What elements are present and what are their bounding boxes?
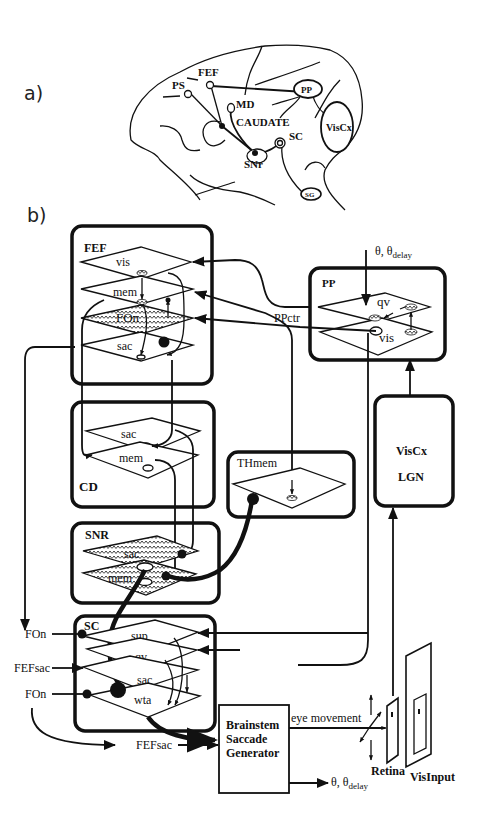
label-sg: SG — [305, 191, 315, 199]
fef-vis-cell — [137, 271, 147, 276]
thmem-title: THmem — [237, 456, 278, 470]
theta-top-label: θ, θdelay — [375, 244, 412, 260]
ps-node — [185, 91, 192, 98]
saccade-model-diagram: a) PS — [0, 0, 482, 832]
label-pp: PP — [301, 85, 312, 95]
module-sc: SC sup qv sac wta — [75, 616, 240, 731]
sulcus — [305, 162, 325, 170]
label-sc: SC — [289, 130, 303, 142]
fon-input-label-2: FOn — [25, 687, 46, 701]
retina-target — [391, 712, 393, 717]
snr-title: SNR — [85, 528, 109, 542]
cd-sac-to-snr-sac-connection — [175, 430, 193, 555]
fef-mem-inhib-dot — [166, 298, 171, 303]
thmem-cell — [287, 496, 297, 501]
snr-label-mem: mem — [108, 571, 133, 585]
retina-label: Retina — [371, 764, 405, 778]
cd-label-mem: mem — [119, 451, 144, 465]
module-viscx: VisCx LGN — [375, 360, 453, 506]
thmem-inhib-node — [247, 493, 259, 505]
label-fef: FEF — [198, 66, 219, 78]
fef-inhibitory-node — [159, 337, 170, 348]
visinput-label: VisInput — [410, 770, 455, 784]
label-snr: SNr — [244, 158, 263, 170]
panel-a: a) PS — [24, 45, 362, 210]
snr-label-sac: sac — [124, 547, 139, 561]
pp-label-qv: qv — [377, 294, 391, 309]
fef-fon-out-connection — [25, 347, 75, 630]
fef-sulcus — [187, 78, 198, 80]
arrow-diag-down — [360, 728, 369, 742]
viscx-subtitle: LGN — [398, 470, 424, 484]
module-thmem: THmem — [228, 452, 354, 517]
sc-sg-connection — [282, 145, 302, 192]
pp-qv-cell — [369, 315, 381, 321]
fef-sac-cell — [137, 355, 145, 359]
viscx-title: VisCx — [396, 444, 427, 458]
snr-node — [252, 150, 258, 156]
module-brainstem: Brainstem Saccade Generator — [219, 705, 289, 793]
fef-layer-mem — [81, 276, 193, 304]
pp-qv-cell-2 — [405, 304, 417, 310]
ps-sulcus — [163, 96, 180, 97]
fef-label-sac: sac — [117, 339, 132, 353]
snr-sac-inhib-node — [178, 550, 187, 559]
label-caudate: CAUDATE — [236, 116, 290, 128]
fon-input-label-1: FOn — [25, 627, 46, 641]
label-md: MD — [236, 98, 254, 110]
fef-pp-connection — [211, 86, 305, 92]
module-fef: FEF vis mem FOn sac — [72, 226, 212, 384]
sulcus — [160, 126, 200, 151]
fef-node — [207, 82, 214, 89]
panel-a-label: a) — [24, 82, 43, 104]
fefsac-input-label: FEFsac — [14, 661, 50, 675]
label-viscx: VisCx — [326, 122, 352, 133]
visinput-target — [418, 709, 420, 714]
fefsac-bottom-label: FEFsac — [136, 738, 172, 752]
module-snr: SNR sac mem — [72, 523, 219, 603]
sc-label-wta: wta — [134, 693, 152, 707]
theta-output-label: θ, θdelay — [331, 775, 368, 791]
snr-sac-cell — [137, 563, 153, 571]
brainstem-line1: Brainstem — [226, 718, 279, 732]
fef-label-fon: FOn — [116, 310, 140, 325]
sc-wta-inhib-node — [110, 682, 126, 698]
fef-title: FEF — [84, 241, 107, 255]
pp-title: PP — [322, 277, 336, 289]
sc-node-inner — [278, 141, 283, 146]
eye-movement-label: eye movement — [291, 711, 362, 725]
snr-to-thmem-connection — [168, 500, 252, 579]
retina: Retina — [371, 698, 405, 778]
label-ps: PS — [172, 79, 185, 91]
cd-mem-cell — [143, 465, 153, 471]
visinput: VisInput — [406, 643, 455, 784]
fef-label-mem: mem — [113, 285, 138, 299]
panel-b-label: b) — [27, 204, 46, 226]
brainstem-line2: Saccade — [226, 732, 268, 746]
sc-title: SC — [84, 619, 99, 633]
module-pp: PP qv vis — [310, 250, 445, 360]
cd-title: CD — [79, 479, 98, 494]
visinput-inner — [414, 694, 426, 754]
fef-mem-cell — [137, 300, 147, 305]
fef-label-vis: vis — [116, 255, 130, 269]
panel-b: b) FEF vis mem FOn sac PP — [14, 204, 455, 793]
ppctr-label: PPctr — [274, 311, 300, 325]
md-node — [228, 104, 235, 113]
pp-layer-vis — [320, 318, 432, 355]
sc-to-brainstem-connection — [148, 717, 215, 740]
brainstem-line3: Generator — [226, 746, 280, 760]
cd-label-sac: sac — [121, 427, 136, 441]
retina-plane — [387, 698, 398, 763]
brainstem-outline — [190, 175, 275, 205]
sulcus — [195, 182, 235, 195]
caudate-node — [219, 123, 225, 129]
